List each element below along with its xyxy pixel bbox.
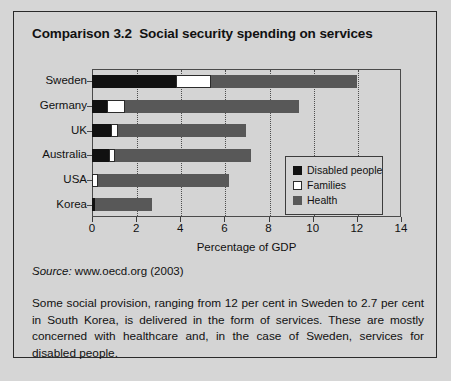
bar-segment-disabled (92, 75, 176, 88)
bar-row (92, 124, 401, 137)
figure-panel: Comparison 3.2 Social security spending … (13, 11, 437, 358)
y-axis-tick (87, 155, 92, 156)
figure-title: Comparison 3.2 Social security spending … (32, 26, 373, 41)
x-axis-tick-label: 6 (221, 222, 227, 234)
bar-segment-disabled (92, 149, 109, 162)
gridline (270, 70, 271, 216)
comparison-figure: Comparison 3.2 Social security spending … (0, 0, 451, 381)
bar-segment-families (109, 149, 116, 162)
source-label: Source: (32, 265, 72, 277)
bar-segment-families (111, 124, 119, 137)
category-label: Sweden (45, 74, 87, 86)
bar-row (92, 174, 401, 187)
x-axis-tick-label: 10 (306, 222, 319, 234)
y-axis-tick (87, 81, 92, 82)
category-label: UK (71, 124, 87, 136)
gridline (181, 70, 182, 216)
bar-segment-health (115, 149, 251, 162)
x-axis-tick-label: 12 (350, 222, 363, 234)
bar-segment-health (98, 174, 229, 187)
bar-row (92, 198, 401, 211)
x-axis-tick-label: 4 (177, 222, 183, 234)
y-axis-tick (87, 205, 92, 206)
x-axis-tick-label: 8 (265, 222, 271, 234)
x-axis-tick-label: 14 (395, 222, 408, 234)
category-label: Germany (40, 99, 87, 111)
bar-chart: SwedenGermanyUKAustraliaUSAKorea Disable… (14, 59, 438, 237)
bar-segment-health (125, 100, 299, 113)
category-label: Australia (42, 148, 87, 160)
bar-segment-health (211, 75, 357, 88)
caption-paragraph: Some social provision, ranging from 12 p… (32, 295, 424, 361)
source-value: www.oecd.org (2003) (72, 265, 184, 277)
bar-row (92, 149, 401, 162)
category-axis-labels: SwedenGermanyUKAustraliaUSAKorea (14, 69, 87, 217)
gridline (225, 70, 226, 216)
category-label: Korea (56, 198, 87, 210)
bar-row (92, 75, 401, 88)
source-line: Source: www.oecd.org (2003) (32, 265, 184, 277)
bar-segment-disabled (92, 100, 107, 113)
y-axis-tick (87, 131, 92, 132)
bar-segment-health (95, 198, 151, 211)
bar-segment-families (107, 100, 125, 113)
x-axis-tick-label: 2 (133, 222, 139, 234)
bar-segment-disabled (92, 124, 111, 137)
x-axis-tick-label: 0 (89, 222, 95, 234)
bar-segment-families (176, 75, 211, 88)
bar-row (92, 100, 401, 113)
category-label: USA (63, 173, 87, 185)
bar-segment-health (118, 124, 246, 137)
y-axis-tick (87, 106, 92, 107)
y-axis-tick (87, 180, 92, 181)
gridline (137, 70, 138, 216)
x-axis-title: Percentage of GDP (92, 241, 401, 253)
